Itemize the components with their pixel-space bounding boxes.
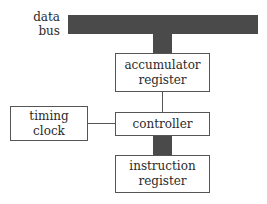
data-bus-bar (68, 15, 258, 34)
controller-instruction-link (153, 136, 172, 155)
controller-label: controller (133, 117, 193, 132)
instruction-label-line2: register (138, 174, 186, 189)
timing-label-line2: clock (33, 124, 65, 139)
instruction-register-box: instruction register (115, 155, 210, 193)
bus-to-accumulator-link (153, 34, 172, 53)
instruction-label-line1: instruction (129, 159, 195, 174)
timing-label-line1: timing (29, 109, 68, 124)
controller-box: controller (115, 112, 210, 136)
accumulator-register-box: accumulator register (115, 53, 210, 92)
timing-clock-box: timing clock (10, 106, 88, 141)
accumulator-label-line2: register (138, 73, 186, 88)
accumulator-controller-connector (162, 92, 163, 112)
bus-label-line2: bus (30, 24, 60, 38)
timing-controller-connector (88, 123, 115, 124)
accumulator-label-line1: accumulator (124, 58, 200, 73)
bus-label-line1: data (30, 10, 60, 24)
data-bus-label: data bus (30, 10, 60, 38)
